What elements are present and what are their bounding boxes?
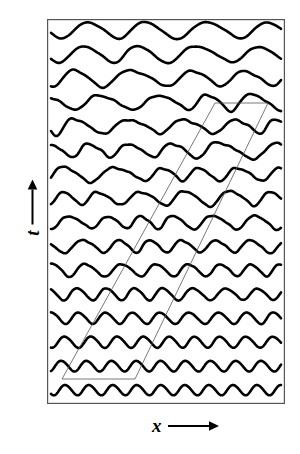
y-axis-letter: t (23, 230, 42, 235)
x-axis-letter: x (152, 416, 162, 435)
plot-area (47, 19, 285, 404)
y-axis-label: t (23, 174, 42, 242)
up-arrow-icon (25, 179, 39, 225)
x-axis-label: x (152, 416, 219, 435)
right-arrow-icon (167, 419, 219, 433)
figure-root: x t (0, 0, 300, 454)
plot-svg (47, 19, 285, 404)
